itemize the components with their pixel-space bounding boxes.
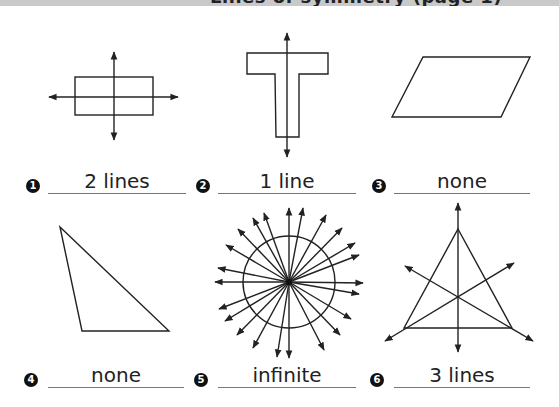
shape-scalene-triangle xyxy=(60,227,169,331)
answer-3: 3 none xyxy=(372,172,532,196)
answer-6: 6 3 lines xyxy=(370,366,532,390)
shape-parallelogram xyxy=(392,57,530,117)
answer-underline xyxy=(48,193,186,194)
shape-equilateral-triangle xyxy=(385,203,533,352)
answer-text[interactable]: none xyxy=(48,363,184,387)
answer-text[interactable]: 1 line xyxy=(218,169,356,193)
answer-underline xyxy=(48,387,184,388)
shape-circle xyxy=(215,208,363,358)
shape-t xyxy=(247,33,328,157)
answer-4: 4 none xyxy=(24,366,186,390)
answer-text[interactable]: none xyxy=(394,169,530,193)
answer-text[interactable]: 2 lines xyxy=(48,169,186,193)
number-bullet: 1 xyxy=(26,179,40,193)
shape-rectangle xyxy=(49,52,178,140)
number-bullet: 3 xyxy=(372,179,386,193)
answer-underline xyxy=(218,387,356,388)
shapes-figure xyxy=(0,0,559,407)
number-bullet: 6 xyxy=(370,373,384,387)
answer-underline xyxy=(394,387,530,388)
answer-underline xyxy=(218,193,356,194)
answer-5: 5 infinite xyxy=(194,366,358,390)
answer-2: 2 1 line xyxy=(196,172,358,196)
answer-text[interactable]: 3 lines xyxy=(394,363,530,387)
number-bullet: 5 xyxy=(194,373,208,387)
answer-underline xyxy=(394,193,530,194)
answer-text[interactable]: infinite xyxy=(218,363,356,387)
answer-1: 1 2 lines xyxy=(26,172,186,196)
number-bullet: 2 xyxy=(196,179,210,193)
number-bullet: 4 xyxy=(24,373,38,387)
